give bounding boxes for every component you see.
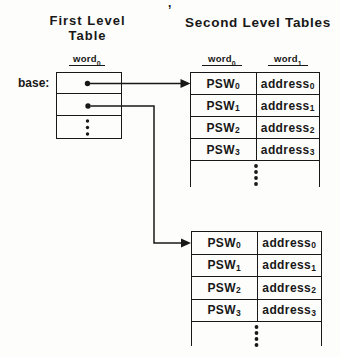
address-cell: address2 — [258, 277, 321, 299]
address-cell: address1 — [257, 95, 319, 116]
psw-cell: PSW1 — [192, 255, 258, 277]
address-label: address — [262, 303, 311, 317]
table-row: PSW1 address1 — [191, 95, 319, 117]
address-label: address — [261, 99, 310, 113]
psw-cell: PSW3 — [192, 300, 258, 322]
psw-cell: PSW2 — [191, 117, 257, 138]
table-row: PSW0 address0 — [191, 73, 319, 95]
first-level-title-line1: First Level — [27, 14, 148, 29]
psw-label: PSW — [206, 121, 235, 135]
first-level-entry-0 — [57, 73, 121, 94]
psw-label: PSW — [206, 143, 235, 157]
arrowhead-table1 — [181, 79, 191, 88]
table-row: PSW3 address3 — [191, 139, 319, 161]
arrowhead-table2 — [181, 239, 191, 248]
table-row: PSW1 address1 — [192, 255, 321, 278]
address-cell: address3 — [258, 300, 321, 322]
psw-label: PSW — [207, 281, 236, 295]
psw-label: PSW — [207, 236, 236, 250]
second-level-word0-header: word0 — [202, 53, 242, 66]
word-label: word — [208, 53, 232, 64]
table-row: PSW0 address0 — [192, 232, 321, 255]
second-level-tables-title: Second Level Tables — [178, 16, 338, 31]
psw-cell: PSW1 — [191, 95, 257, 116]
table-row: PSW2 address2 — [192, 277, 321, 300]
first-level-title-line2: Table — [27, 29, 148, 44]
second-level-word1-header: word1 — [268, 53, 308, 66]
first-level-table — [56, 72, 122, 139]
address-label: address — [262, 236, 311, 250]
word-label: word — [274, 53, 298, 64]
table-row: PSW2 address2 — [191, 117, 319, 139]
stray-scan-mark: , — [168, 0, 171, 10]
psw-label: PSW — [206, 77, 235, 91]
address-label: address — [261, 77, 310, 91]
psw-label: PSW — [206, 99, 235, 113]
first-level-table-title: First Level Table — [27, 14, 148, 43]
second-level-table-1: PSW0 address0 PSW1 address1 PSW2 address… — [190, 72, 320, 187]
psw-cell: PSW0 — [192, 232, 258, 254]
word-subscript: 0 — [97, 60, 101, 67]
address-label: address — [261, 143, 310, 157]
base-register-label: base: — [18, 76, 48, 90]
address-label: address — [262, 258, 311, 272]
psw-label: PSW — [207, 303, 236, 317]
first-level-word0-header: word0 — [69, 53, 105, 66]
address-label: address — [262, 281, 311, 295]
psw-label: PSW — [207, 258, 236, 272]
address-cell: address0 — [257, 73, 319, 94]
address-cell: address1 — [258, 255, 321, 277]
psw-cell: PSW0 — [191, 73, 257, 94]
psw-cell: PSW3 — [191, 139, 257, 160]
table-row: PSW3 address3 — [192, 300, 321, 323]
second-level-table-2: PSW0 address0 PSW1 address1 PSW2 address… — [191, 231, 322, 346]
address-cell: address0 — [258, 232, 321, 254]
address-cell: address3 — [257, 139, 319, 160]
two-level-page-table-diagram: , First Level Table Second Level Tables … — [0, 0, 340, 357]
word-subscript: 0 — [232, 60, 236, 67]
psw-cell: PSW2 — [192, 277, 258, 299]
address-label: address — [261, 121, 310, 135]
address-cell: address2 — [257, 117, 319, 138]
first-level-entry-1 — [57, 94, 121, 116]
word-subscript: 1 — [298, 60, 302, 67]
word-label: word — [73, 53, 97, 64]
